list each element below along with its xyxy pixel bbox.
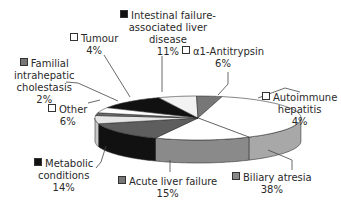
legend-swatch-grey: [232, 172, 240, 180]
legend-swatch-black: [34, 158, 42, 166]
legend-swatch-grey: [118, 176, 126, 184]
legend-swatch-white: [262, 92, 270, 100]
legend-swatch-grey: [20, 58, 28, 66]
legend-swatch-white: [70, 33, 78, 41]
label-familial-cholestasis: Familial intrahepatic cholestasis 2%: [14, 58, 74, 106]
legend-swatch-black: [120, 10, 128, 18]
legend-swatch-white: [182, 46, 190, 54]
label-autoimmune-hepatitis: Autoimmune hepatitis 4%: [262, 92, 337, 128]
pie-side-acute-liver-failure: [156, 137, 249, 163]
label-acute-liver-failure: Acute liver failure 15%: [118, 176, 217, 200]
label-other: Other 6%: [48, 104, 87, 128]
label-biliary-atresia: Biliary atresia 38%: [232, 172, 312, 196]
label-tumour: Tumour 4%: [70, 33, 118, 57]
label-alpha1-antitrypsin: α1-Antitrypsin 6%: [182, 46, 264, 70]
label-metabolic-conditions: Metabolic conditions 14%: [34, 158, 93, 194]
